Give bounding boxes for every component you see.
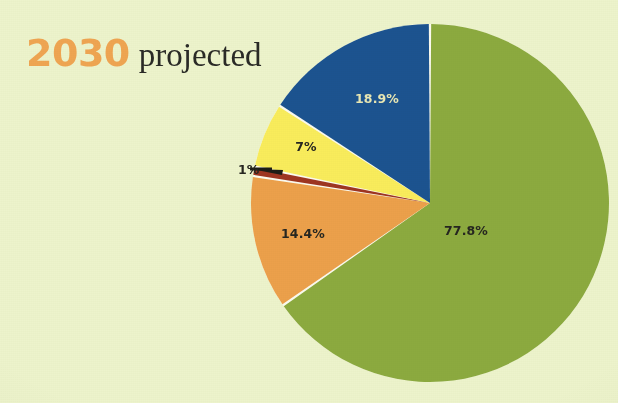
pie-label-7: 7% [295, 139, 316, 154]
pie-label-77-8: 77.8% [444, 223, 488, 238]
page-title: 2030projected [26, 34, 262, 72]
pie-label-14-4: 14.4% [281, 226, 325, 241]
pie-label-18-9: 18.9% [355, 91, 399, 106]
chart-page: 2030projected 77.8% 14.4% 1% 7% 18.9% [0, 0, 618, 403]
pie-label-1: 1% [238, 162, 259, 177]
title-qualifier: projected [139, 37, 262, 73]
pie-slice-group [251, 24, 609, 382]
title-year: 2030 [26, 31, 130, 75]
